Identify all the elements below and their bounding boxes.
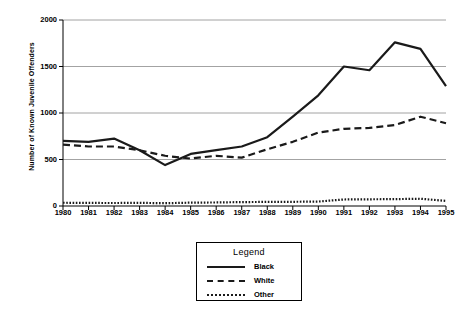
legend-swatch-dashed-icon — [207, 277, 245, 285]
legend-item-other: Other — [197, 290, 301, 299]
legend-item-black: Black — [197, 262, 301, 271]
legend-swatch-solid-icon — [207, 263, 245, 271]
legend-item-label: White — [254, 276, 274, 285]
legend-title: Legend — [197, 247, 301, 257]
y-tick-label: 2000 — [29, 16, 57, 24]
legend-item-label: Other — [254, 290, 274, 299]
legend-item-label: Black — [254, 262, 274, 271]
y-tick-label: 500 — [29, 156, 57, 164]
line-chart: Number of Known Juvenile Offenders 05001… — [0, 0, 459, 313]
y-tick-label: 1000 — [29, 109, 57, 117]
legend-item-white: White — [197, 276, 301, 285]
series-line-other — [63, 199, 446, 203]
y-tick-label: 1500 — [29, 63, 57, 71]
x-tick-label: 1995 — [431, 208, 459, 217]
legend-swatch-dotted-icon — [207, 291, 245, 299]
legend: Legend BlackWhiteOther — [196, 242, 302, 301]
series-line-white — [63, 117, 446, 159]
